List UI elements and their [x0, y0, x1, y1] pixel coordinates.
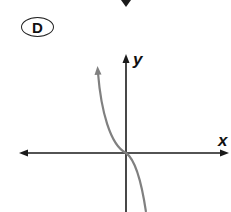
answer-option-label: D	[21, 17, 54, 37]
y-axis-up-arrow-icon	[123, 54, 130, 63]
option-letter: D	[32, 20, 43, 35]
y-axis	[123, 54, 130, 212]
y-axis-label: y	[133, 51, 142, 68]
x-axis-label: x	[218, 132, 227, 149]
down-arrow-icon	[121, 0, 131, 7]
function-curve	[95, 66, 147, 212]
curve-arrow-icon	[95, 66, 102, 75]
x-axis-left-arrow-icon	[19, 150, 28, 157]
x-axis-right-arrow-icon	[220, 150, 229, 157]
